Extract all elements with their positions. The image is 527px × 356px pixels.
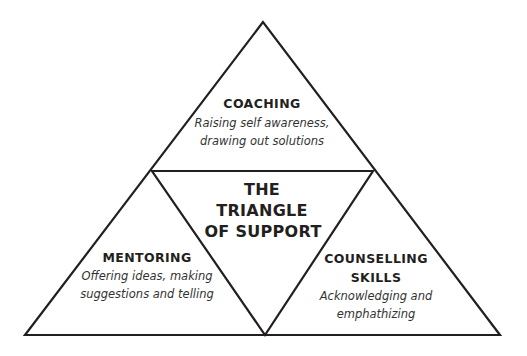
center-title-line-2: TRIANGLE: [216, 201, 308, 220]
counselling-description-line-2: emphathizing: [337, 307, 416, 321]
coaching-heading: COACHING: [223, 96, 300, 111]
mentoring-description-line-2: suggestions and telling: [80, 287, 214, 301]
counselling-description-line-1: Acknowledging and: [320, 289, 433, 303]
center-title-line-3: OF SUPPORT: [204, 222, 321, 241]
coaching-description-line-2: drawing out solutions: [200, 134, 324, 148]
counselling-heading-line-1: COUNSELLING: [324, 251, 428, 266]
triangle-of-support-diagram: [0, 0, 527, 356]
mentoring-heading: MENTORING: [102, 250, 191, 265]
counselling-heading-line-2: SKILLS: [351, 270, 402, 285]
mentoring-description-line-1: Offering ideas, making: [81, 269, 212, 283]
coaching-description-line-1: Raising self awareness,: [195, 116, 330, 130]
center-title-line-1: THE: [244, 180, 280, 199]
